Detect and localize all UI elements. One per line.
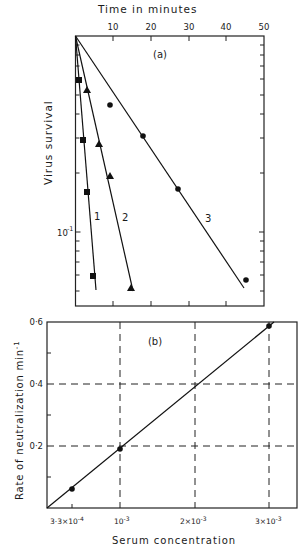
x-tick-label: 10-3	[114, 515, 130, 526]
x-tick-label: 40	[221, 22, 232, 32]
x-tick-label: 3×10-3	[255, 515, 282, 526]
y-tick-label: 0·4	[29, 379, 43, 389]
panel-b-label: (b)	[148, 336, 162, 347]
x-tick-label: 50	[259, 22, 270, 32]
panel-b-y-tick-labels: 0·2 0·4 0·6	[29, 317, 43, 451]
line-3	[76, 36, 245, 288]
panel-a-lines	[76, 36, 245, 291]
panel-a-y-tick-label: 10 -1	[57, 225, 73, 238]
panel-a-ylabel: Virus survival	[42, 100, 54, 185]
panel-b-x-tick-labels: 3·3×10-4 10-3 2×10-3 3×10-3	[50, 515, 282, 526]
line-label-3: 3	[205, 213, 211, 224]
x-tick-label: 30	[184, 22, 195, 32]
panel-b-y-ticks	[47, 353, 72, 508]
x-tick-label: 10	[108, 22, 119, 32]
panel-b: 0·2 0·4 0·6 3·3×10-4 10-3 2×10-3 3×10-3 …	[13, 317, 297, 546]
panel-a-log-ticks	[76, 45, 265, 291]
panel-b-frame	[47, 322, 297, 508]
panel-b-grid	[47, 322, 297, 508]
y-tick-label: 0·6	[29, 317, 43, 327]
line-label-2: 2	[122, 212, 128, 223]
panel-a-xlabel: Time in minutes	[97, 3, 197, 15]
panel-a-label: (a)	[153, 49, 167, 60]
line-label-1: 1	[94, 211, 100, 222]
series-3-markers	[107, 102, 249, 283]
x-tick-label: 20	[146, 22, 157, 32]
x-tick-label: 3·3×10-4	[50, 515, 84, 526]
panel-b-ylabel: Rate of neutralization min-1	[13, 341, 25, 500]
panel-a: Time in minutes 10 20 30 40 50	[42, 3, 269, 306]
y-tick-exp: -1	[67, 225, 73, 233]
y-tick-label: 0·2	[29, 441, 43, 451]
line-1	[76, 36, 97, 290]
series-2-markers	[83, 86, 135, 291]
panel-b-fit-line	[47, 322, 274, 508]
figure: Time in minutes 10 20 30 40 50	[0, 0, 307, 552]
panel-a-x-tick-labels: 10 20 30 40 50	[108, 22, 270, 32]
line-2	[76, 36, 134, 291]
panel-a-bottom-ticks	[113, 301, 226, 306]
panel-a-frame	[76, 36, 265, 306]
panel-a-top-ticks	[113, 36, 226, 41]
x-tick-label: 2×10-3	[180, 515, 207, 526]
panel-b-xlabel: Serum concentration	[112, 535, 236, 546]
